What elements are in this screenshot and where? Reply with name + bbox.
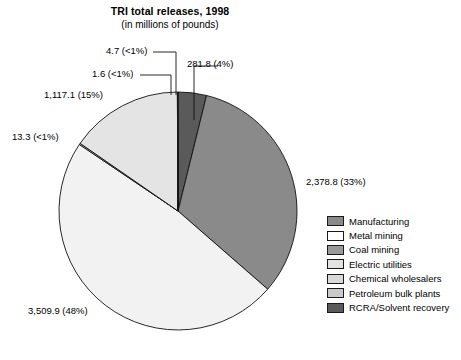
legend-item[interactable]: Coal mining [327,243,449,257]
legend-item[interactable]: Electric utilities [327,257,449,271]
legend-item[interactable]: Metal mining [327,228,449,242]
pie-slices [59,92,297,330]
legend-swatch [327,231,344,241]
callout-chemical-wholesalers: 3,509.9 (48%) [28,305,88,316]
legend-swatch [327,303,344,313]
callout-coal-mining: 1.6 (<1%) [92,68,133,79]
legend-item-label: Metal mining [349,230,403,241]
legend-swatch [327,288,344,298]
callout-metal-mining: 1,117.1 (15%) [44,89,103,100]
legend-item-label: Chemical wholesalers [349,273,441,284]
legend-item[interactable]: RCRA/Solvent recovery [327,300,449,314]
legend-item[interactable]: Manufacturing [327,214,449,228]
legend-item[interactable]: Chemical wholesalers [327,272,449,286]
legend-item[interactable]: Petroleum bulk plants [327,286,449,300]
callout-petroleum-bulk-plants: 13.3 (<1%) [12,131,59,142]
legend-item-label: Manufacturing [349,216,409,227]
legend-swatch [327,274,344,284]
legend: ManufacturingMetal miningCoal miningElec… [327,214,449,315]
legend-item-label: Petroleum bulk plants [349,288,440,299]
callout-electric-utilities: 4.7 (<1%) [106,45,147,56]
legend-item-label: Electric utilities [349,259,412,270]
callout-manufacturing: 2,378.8 (33%) [306,176,366,187]
chart-page: TRI total releases, 1998 (in millions of… [0,0,461,360]
legend-swatch [327,259,344,269]
legend-swatch [327,216,344,226]
legend-swatch [327,245,344,255]
legend-item-label: Coal mining [349,244,399,255]
legend-item-label: RCRA/Solvent recovery [349,302,449,313]
callout-rcra: 281.8 (4%) [187,58,233,69]
